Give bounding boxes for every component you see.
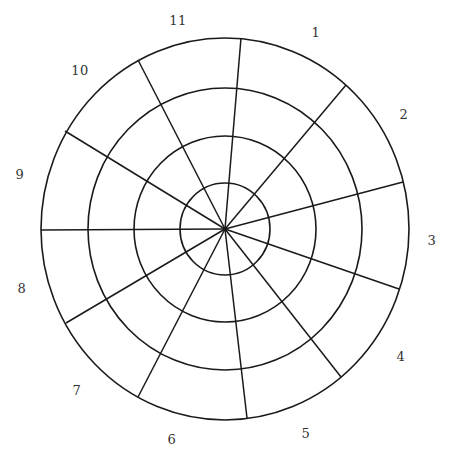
segment-label-10: 10 [71, 63, 89, 78]
spoke-divider [225, 38, 241, 229]
spoke-divider [225, 85, 346, 229]
spokes-group [41, 38, 403, 418]
polar-wheel-diagram [0, 0, 458, 456]
spoke-divider [138, 60, 225, 229]
segment-label-6: 6 [168, 432, 177, 447]
segment-label-1: 1 [312, 25, 321, 40]
segment-label-5: 5 [302, 426, 311, 441]
segment-label-9: 9 [16, 167, 25, 182]
segment-label-2: 2 [400, 107, 409, 122]
segment-label-11: 11 [169, 13, 187, 28]
segment-label-3: 3 [428, 233, 437, 248]
segment-label-8: 8 [18, 281, 27, 296]
spoke-divider [41, 229, 225, 230]
spoke-divider [225, 182, 403, 229]
spoke-divider [225, 229, 399, 289]
segment-label-7: 7 [73, 383, 82, 398]
spoke-divider [225, 229, 341, 377]
spoke-divider [225, 229, 247, 418]
segment-label-4: 4 [397, 349, 406, 364]
